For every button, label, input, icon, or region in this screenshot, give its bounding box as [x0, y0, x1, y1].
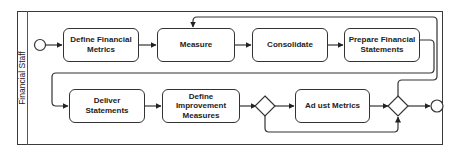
- task-define-financial-metrics[interactable]: Define Financial Metrics: [63, 28, 139, 62]
- task-prepare-financial-statements[interactable]: Prepare Financial Statements: [344, 28, 420, 62]
- bpmn-diagram: Financial Staff: [0, 0, 470, 153]
- task-label: Consolidate: [267, 40, 313, 50]
- task-define-improvement-measures[interactable]: Define Improvement Measures: [162, 89, 240, 123]
- task-label: Define Financial Metrics: [66, 35, 136, 54]
- task-label: Define Improvement Measures: [165, 92, 237, 121]
- task-label: Prepare Financial Statements: [347, 35, 417, 54]
- gateway-2-icon: [388, 96, 408, 116]
- start-event-icon: [35, 40, 46, 51]
- task-label: Deliver Statements: [72, 96, 142, 115]
- task-label: Ad ust Metrics: [305, 101, 360, 111]
- gateway-1-icon: [255, 96, 275, 116]
- end-event-icon: [431, 100, 443, 112]
- task-measure[interactable]: Measure: [157, 28, 235, 62]
- flow-connectors: [0, 0, 470, 153]
- task-adjust-metrics[interactable]: Ad ust Metrics: [295, 89, 370, 123]
- task-label: Measure: [180, 40, 212, 50]
- task-deliver-statements[interactable]: Deliver Statements: [69, 89, 145, 123]
- task-consolidate[interactable]: Consolidate: [252, 28, 328, 62]
